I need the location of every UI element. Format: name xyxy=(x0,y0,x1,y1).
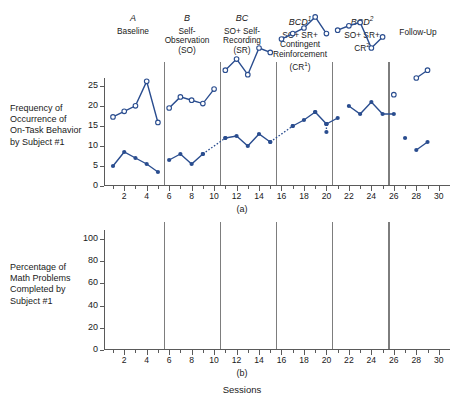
data-point xyxy=(324,31,329,36)
data-point xyxy=(234,57,239,62)
data-point xyxy=(324,122,328,126)
data-point xyxy=(156,170,160,174)
series-line xyxy=(169,154,203,164)
data-point xyxy=(347,104,351,108)
data-point xyxy=(245,72,250,77)
data-point xyxy=(313,15,318,20)
data-point xyxy=(290,31,295,36)
data-point xyxy=(246,144,250,148)
data-point xyxy=(178,152,182,156)
data-point xyxy=(425,140,429,144)
data-point xyxy=(414,148,418,152)
data-point xyxy=(425,68,430,73)
data-point xyxy=(133,103,138,108)
data-point xyxy=(201,152,205,156)
series-line xyxy=(113,152,158,172)
data-point xyxy=(369,100,373,104)
data-point xyxy=(190,162,194,166)
panel-b: Percentage of Math Problems Completed by… xyxy=(0,222,454,412)
data-point xyxy=(122,109,127,114)
panel-b-caption: (b) xyxy=(212,368,272,378)
data-point xyxy=(336,116,340,120)
series-line xyxy=(203,138,225,154)
data-point xyxy=(167,158,171,162)
x-axis-caption: Sessions xyxy=(182,384,302,395)
panel-a-caption: (a) xyxy=(212,204,272,214)
panel-a-series xyxy=(0,0,454,215)
data-point xyxy=(133,156,137,160)
data-point xyxy=(268,50,273,55)
data-point xyxy=(414,76,419,81)
data-point xyxy=(324,130,328,134)
data-point xyxy=(201,101,206,106)
data-point xyxy=(223,136,227,140)
data-point xyxy=(358,20,363,25)
data-point xyxy=(403,136,407,140)
series-line xyxy=(270,126,292,142)
data-point xyxy=(111,164,115,168)
data-point xyxy=(145,162,149,166)
data-point xyxy=(178,95,183,100)
data-point xyxy=(212,87,217,92)
data-point xyxy=(189,98,194,103)
data-point xyxy=(122,150,126,154)
data-point xyxy=(257,46,262,51)
data-point xyxy=(291,124,295,128)
data-point xyxy=(268,140,272,144)
data-point xyxy=(347,23,352,28)
data-point xyxy=(257,132,261,136)
data-point xyxy=(156,120,161,125)
data-point xyxy=(167,106,172,111)
figure-root: A Baseline B Self-Observation(SO) BC SO+… xyxy=(0,0,454,412)
data-point xyxy=(144,79,149,84)
data-point xyxy=(279,37,284,42)
data-point xyxy=(223,68,228,73)
data-point xyxy=(313,110,317,114)
data-point xyxy=(392,92,397,97)
data-point xyxy=(392,112,396,116)
data-point xyxy=(302,118,306,122)
series-line xyxy=(315,112,326,124)
data-point xyxy=(234,134,238,138)
data-point xyxy=(380,112,384,116)
data-point xyxy=(111,115,116,120)
data-point xyxy=(302,26,307,31)
data-point xyxy=(380,35,385,40)
data-point xyxy=(369,46,374,51)
data-point xyxy=(358,112,362,116)
panel-a: Frequency of Occurrence of On-Task Behav… xyxy=(0,0,454,215)
data-point xyxy=(335,28,340,33)
